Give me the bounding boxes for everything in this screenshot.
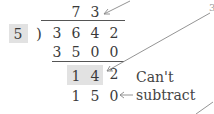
partial-arrow-bottom-right	[196, 102, 213, 114]
arrow-to-quotient	[104, 1, 130, 14]
edge-label-fragment: 3	[209, 3, 214, 13]
arrow-to-remainder	[107, 13, 210, 71]
annotation-arrows	[0, 0, 214, 114]
